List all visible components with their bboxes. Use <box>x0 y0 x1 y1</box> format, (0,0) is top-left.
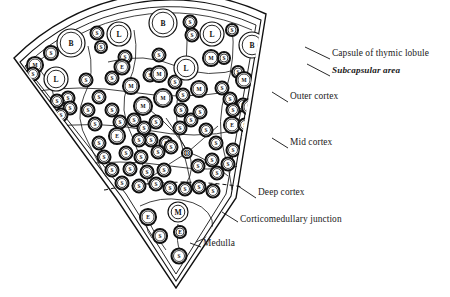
cell-label: L <box>116 30 121 39</box>
cell-s: S <box>280 74 293 87</box>
cell-s: S <box>98 151 111 164</box>
cell-label: M <box>128 83 133 89</box>
cell-label: D <box>185 150 189 156</box>
cell-label: S <box>205 127 208 133</box>
cell-s: S <box>207 185 220 198</box>
cell-label: S <box>150 137 153 143</box>
cell-s: S <box>106 104 119 117</box>
cell-label: S <box>232 147 235 153</box>
annotation-label-capsule: Capsule of thymic lobule <box>332 49 429 58</box>
cell-l: L <box>200 22 224 46</box>
cell-label: M <box>140 103 145 109</box>
cell-label: M <box>208 55 213 61</box>
cell-label: S <box>50 50 53 56</box>
cell-label: S <box>111 75 114 81</box>
cell-label: S <box>180 107 183 113</box>
cell-l: L <box>44 67 68 91</box>
cell-label: S <box>189 19 192 25</box>
thymic-lobule-figure: BSMSLSSEBSSLSSBSMSLSSSMSMSLMSSMLSSSSSSMM… <box>0 0 450 297</box>
cell-s: S <box>152 146 165 159</box>
cell-label: S <box>276 42 279 48</box>
cell-e: E <box>174 226 186 238</box>
cell-s: S <box>150 178 163 191</box>
cell-s: S <box>106 72 119 85</box>
cell-label: S <box>163 167 166 173</box>
cell-s: S <box>174 122 187 135</box>
cell-label: L <box>209 30 214 39</box>
cell-label: E <box>146 214 150 220</box>
cell-label: S <box>216 170 219 176</box>
annotation-label-mid-cortex: Mid cortex <box>290 138 332 147</box>
cell-s: S <box>227 144 240 157</box>
cell-label: B <box>68 39 73 48</box>
cell-m: M <box>236 72 252 88</box>
cell-label: S <box>140 154 143 160</box>
cell-label: E <box>178 229 182 235</box>
cell-label: M <box>174 208 181 217</box>
cell-m: M <box>151 66 167 82</box>
cell-label: S <box>121 180 124 186</box>
annotation-label-subcapsular: Subcapsular area <box>332 66 400 75</box>
cell-b: B <box>149 9 177 37</box>
leader-line-subcapsular <box>307 64 330 76</box>
cell-s: S <box>44 46 58 60</box>
cell-label: S <box>191 32 194 38</box>
cell-label: L <box>53 75 58 84</box>
cell-s: S <box>179 183 192 196</box>
cell-s: S <box>150 116 163 129</box>
cell-label: S <box>157 149 160 155</box>
cell-label: S <box>85 77 88 83</box>
cell-s: S <box>218 52 230 64</box>
cell-s: S <box>186 29 199 42</box>
leader-line-cmj <box>222 212 238 222</box>
cell-s: S <box>95 41 107 53</box>
cell-s: S <box>260 101 273 114</box>
cell-label: S <box>138 137 141 143</box>
cell-b: B <box>57 29 85 57</box>
cell-s: S <box>55 109 68 122</box>
cell-label: S <box>197 163 200 169</box>
cell-label: S <box>87 107 90 113</box>
cell-s: S <box>239 119 252 132</box>
cell-label: S <box>272 59 275 65</box>
cell-s: S <box>153 49 166 62</box>
cell-label: L <box>264 78 269 87</box>
cell-label: S <box>146 169 149 175</box>
cell-s: S <box>51 95 64 108</box>
cell-m: M <box>134 97 152 115</box>
cell-label: E <box>230 122 234 128</box>
cell-s: S <box>227 104 240 117</box>
cell-label: S <box>32 71 35 77</box>
annotation-label-outer-cortex: Outer cortex <box>290 92 338 101</box>
cell-label: S <box>227 161 230 167</box>
cell-label: S <box>232 107 235 113</box>
cell-label: S <box>100 44 103 50</box>
cell-label: S <box>285 77 288 83</box>
cell-s: S <box>206 154 219 167</box>
cell-label: S <box>155 181 158 187</box>
cell-s: S <box>124 163 137 176</box>
cell-label: S <box>179 125 182 131</box>
cell-s: S <box>133 134 146 147</box>
cell-label: S <box>223 55 226 61</box>
cell-label: L <box>183 64 188 73</box>
cell-label: S <box>96 30 99 36</box>
cell-e: E <box>140 209 156 225</box>
cell-label: S <box>119 119 122 125</box>
cell-s: S <box>211 167 224 180</box>
cell-label: S <box>133 117 136 123</box>
cell-label: M <box>289 56 294 62</box>
cell-e: E <box>109 128 125 144</box>
cell-s: S <box>135 151 148 164</box>
annotation-label-medulla: Medulla <box>203 239 235 248</box>
cell-s: S <box>210 137 223 150</box>
cell-m: M <box>168 202 188 222</box>
cell-s: S <box>177 89 190 102</box>
cell-s: S <box>194 106 207 119</box>
cell-label: E <box>120 64 124 70</box>
cell-label: S <box>211 157 214 163</box>
cell-s: S <box>89 118 102 131</box>
cell-l: L <box>255 70 279 94</box>
thymus-wedge-diagram: BSMSLSSEBSSLSSBSMSLSSSMSMSLMSSMLSSSSSSMM… <box>0 0 450 297</box>
cell-label: S <box>178 253 181 259</box>
